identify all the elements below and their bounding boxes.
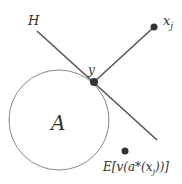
segment-y-to-xj	[94, 27, 154, 82]
label-set-a: A	[49, 111, 65, 135]
point-y-dot	[90, 78, 98, 86]
label-y: y	[87, 63, 95, 77]
label-expectation-end: ))]	[154, 160, 169, 174]
expectation-dot	[122, 148, 129, 155]
label-expectation: E[v(a*(xj))]	[102, 160, 169, 176]
label-xj: xj	[163, 13, 173, 31]
diagram-canvas: H y xj A E[v(a*(xj))]	[0, 0, 182, 184]
point-xj-dot	[151, 24, 158, 31]
label-h: H	[27, 13, 40, 28]
label-expectation-base: E[v(a*(x	[102, 160, 153, 174]
